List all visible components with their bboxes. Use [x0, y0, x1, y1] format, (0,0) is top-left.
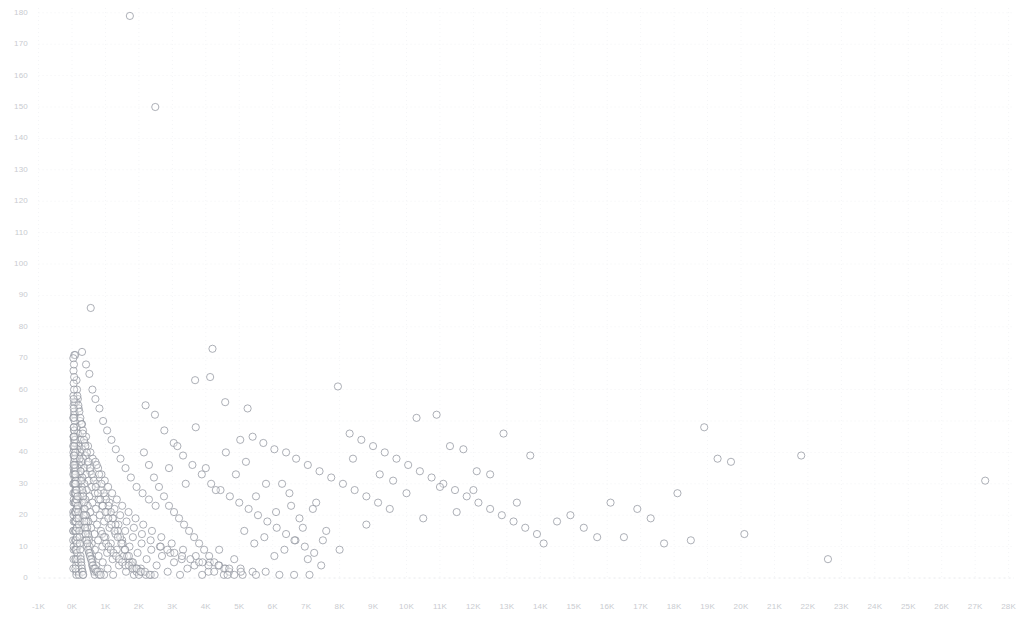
y-axis-tick-label: 170: [2, 40, 28, 48]
data-point: [70, 405, 77, 412]
data-point: [403, 490, 410, 497]
data-point: [282, 530, 289, 537]
data-point: [376, 471, 383, 478]
data-point: [405, 461, 412, 468]
data-point: [241, 527, 248, 534]
data-point: [113, 496, 120, 503]
x-axis-tick-label: 8K: [335, 603, 345, 611]
data-point: [271, 552, 278, 559]
data-point: [567, 512, 574, 519]
data-point: [487, 505, 494, 512]
data-point: [164, 546, 171, 553]
data-point: [252, 571, 259, 578]
data-point: [179, 452, 186, 459]
data-point: [428, 474, 435, 481]
data-point: [334, 383, 341, 390]
x-axis-tick-label: 9K: [368, 603, 378, 611]
data-point: [237, 436, 244, 443]
y-axis-tick-label: 100: [2, 260, 28, 268]
data-point: [433, 411, 440, 418]
data-point: [242, 458, 249, 465]
data-point: [311, 549, 318, 556]
data-point: [319, 537, 326, 544]
data-point: [701, 424, 708, 431]
y-axis-tick-label: 10: [2, 543, 28, 551]
data-point: [369, 443, 376, 450]
x-axis-tick-label: 20K: [734, 603, 749, 611]
data-point: [140, 521, 147, 528]
data-point: [647, 515, 654, 522]
data-point: [237, 568, 244, 575]
data-point: [339, 480, 346, 487]
data-point: [264, 518, 271, 525]
y-axis-tick-label: 40: [2, 448, 28, 456]
data-point: [620, 534, 627, 541]
data-point: [145, 461, 152, 468]
data-point: [127, 474, 134, 481]
data-point: [108, 436, 115, 443]
data-point: [150, 474, 157, 481]
data-point: [222, 399, 229, 406]
data-point: [196, 540, 203, 547]
data-point: [138, 540, 145, 547]
data-point: [201, 546, 208, 553]
data-point: [212, 486, 219, 493]
x-axis-tick-label: 11K: [433, 603, 447, 611]
data-point: [470, 486, 477, 493]
data-point: [170, 508, 177, 515]
data-point: [109, 490, 116, 497]
x-axis-tick-label: 3K: [167, 603, 177, 611]
x-axis-tick-label: 19K: [700, 603, 715, 611]
data-point: [540, 540, 547, 547]
y-axis-tick-label: 0: [2, 574, 28, 582]
data-point: [93, 461, 100, 468]
y-axis-tick-label: 80: [2, 323, 28, 331]
data-point: [363, 521, 370, 528]
data-point: [309, 505, 316, 512]
data-point: [155, 483, 162, 490]
data-point: [71, 443, 78, 450]
data-point: [473, 468, 480, 475]
data-point: [245, 505, 252, 512]
data-point: [607, 499, 614, 506]
data-point: [138, 530, 145, 537]
plot-canvas: [0, 0, 1019, 621]
data-point: [151, 571, 158, 578]
data-point: [117, 512, 124, 519]
data-point: [192, 424, 199, 431]
data-point: [175, 515, 182, 522]
data-point: [174, 443, 181, 450]
data-point: [393, 455, 400, 462]
x-axis-tick-label: 0K: [67, 603, 77, 611]
data-point: [291, 537, 298, 544]
data-point: [140, 449, 147, 456]
y-axis-tick-label: 60: [2, 386, 28, 394]
data-point: [164, 568, 171, 575]
data-point: [89, 386, 96, 393]
x-axis-tick-label: 24K: [867, 603, 882, 611]
x-axis-tick-label: 16K: [600, 603, 615, 611]
data-point: [824, 556, 831, 563]
data-point: [386, 505, 393, 512]
data-point: [178, 552, 185, 559]
x-axis-tick-label: 12K: [466, 603, 481, 611]
data-point: [160, 493, 167, 500]
data-point: [74, 493, 81, 500]
data-point: [190, 534, 197, 541]
data-point: [687, 537, 694, 544]
data-point: [323, 527, 330, 534]
data-point: [206, 552, 213, 559]
data-point: [296, 515, 303, 522]
x-axis-tick-label: 15K: [566, 603, 581, 611]
data-point: [513, 499, 520, 506]
data-point: [133, 483, 140, 490]
data-point: [231, 571, 238, 578]
data-point: [727, 458, 734, 465]
data-point: [301, 543, 308, 550]
x-axis-tick-label: 6K: [268, 603, 278, 611]
data-point: [328, 474, 335, 481]
data-point: [304, 556, 311, 563]
data-point: [271, 446, 278, 453]
data-point: [182, 480, 189, 487]
data-point: [71, 373, 78, 380]
